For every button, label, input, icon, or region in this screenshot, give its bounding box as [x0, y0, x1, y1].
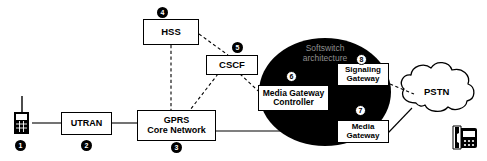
- node-gprs-core-network-label: GPRS Core Network: [147, 116, 206, 135]
- marker-5: 5: [232, 42, 243, 53]
- node-media-gateway-controller-label: Media Gateway Controller: [263, 89, 324, 107]
- node-cscf-label: CSCF: [219, 60, 245, 70]
- diagram-canvas: [0, 0, 487, 161]
- node-media-gateway-label: Media Gateway: [347, 123, 380, 140]
- marker-8: 8: [356, 54, 367, 65]
- network-diagram: Softswitch architecture UTRAN GPRS Core …: [0, 0, 487, 161]
- desk-phone-icon: [453, 126, 477, 149]
- marker-7: 7: [355, 105, 366, 116]
- marker-2: 2: [81, 140, 92, 151]
- node-utran-label: UTRAN: [71, 119, 103, 129]
- node-utran[interactable]: UTRAN: [61, 112, 112, 135]
- marker-3: 3: [171, 142, 182, 153]
- marker-6: 6: [286, 71, 297, 82]
- node-media-gateway-controller[interactable]: Media Gateway Controller: [258, 85, 329, 111]
- node-media-gateway[interactable]: Media Gateway: [337, 120, 389, 143]
- node-hss[interactable]: HSS: [143, 19, 199, 45]
- softswitch-zone-label: Softswitch architecture: [284, 44, 366, 63]
- node-pstn-label: PSTN: [424, 86, 449, 97]
- node-signaling-gateway-label: Signaling Gateway: [345, 66, 381, 83]
- marker-4: 4: [157, 7, 168, 18]
- node-gprs-core-network[interactable]: GPRS Core Network: [137, 110, 216, 141]
- marker-1: 1: [15, 140, 26, 151]
- node-hss-label: HSS: [161, 27, 181, 37]
- node-cscf[interactable]: CSCF: [206, 55, 258, 75]
- mobile-phone-icon: [14, 96, 29, 134]
- node-signaling-gateway[interactable]: Signaling Gateway: [337, 63, 389, 86]
